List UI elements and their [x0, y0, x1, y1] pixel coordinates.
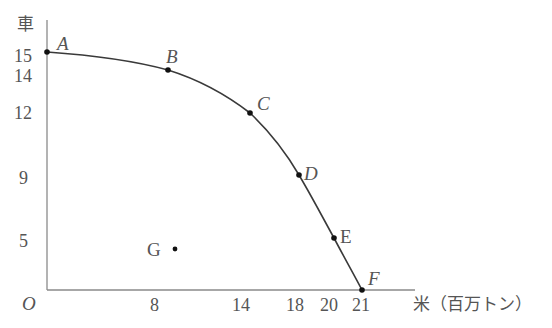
- y-tick-15: 15: [14, 46, 32, 66]
- label-f: F: [367, 268, 380, 289]
- x-tick-20: 20: [320, 295, 338, 315]
- y-tick-14: 14: [14, 66, 32, 86]
- point-g: [173, 247, 178, 252]
- point-b: [165, 67, 171, 73]
- label-d: D: [303, 163, 318, 184]
- point-e: [331, 235, 337, 241]
- point-c: [247, 110, 253, 116]
- y-axis-title: 車: [17, 14, 34, 34]
- point-f: [359, 287, 365, 293]
- x-tick-21: 21: [352, 295, 370, 315]
- x-axis-title: 米（百万トン）: [413, 294, 532, 314]
- x-tick-14: 14: [232, 295, 250, 315]
- x-tick-18: 18: [286, 295, 304, 315]
- origin-label: O: [22, 293, 36, 314]
- y-tick-12: 12: [14, 103, 32, 123]
- point-d: [296, 172, 302, 178]
- label-a: A: [55, 33, 69, 54]
- label-b: B: [166, 46, 178, 67]
- point-a: [44, 49, 50, 55]
- y-tick-9: 9: [19, 168, 28, 188]
- y-tick-5: 5: [19, 231, 28, 251]
- label-c: C: [257, 93, 270, 114]
- x-tick-8: 8: [150, 295, 159, 315]
- label-e: E: [340, 226, 352, 247]
- production-possibility-chart: 車 米（百万トン） O 15 14 12 9 5 8 14 18 20 21 A…: [0, 0, 552, 328]
- label-g: G: [147, 239, 161, 260]
